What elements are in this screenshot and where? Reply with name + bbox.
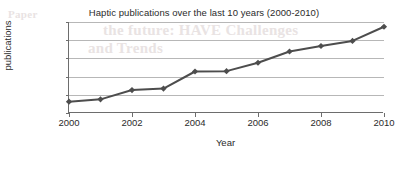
x-tick-label: 2006 bbox=[235, 117, 281, 128]
data-point-marker bbox=[66, 99, 72, 105]
x-axis-label: Year bbox=[68, 137, 383, 148]
chart-figure: Paper the future: HAVE Challenges and Tr… bbox=[0, 0, 408, 187]
data-point-marker bbox=[318, 43, 324, 49]
data-series-haptic-publications bbox=[69, 22, 384, 113]
data-point-marker bbox=[223, 68, 229, 74]
data-point-marker bbox=[97, 96, 103, 102]
x-tick-label: 2002 bbox=[109, 117, 155, 128]
data-point-marker bbox=[381, 24, 387, 30]
y-axis-label: Number of publications bbox=[0, 0, 15, 91]
x-tick-label: 2008 bbox=[298, 117, 344, 128]
x-tick-label: 2004 bbox=[172, 117, 218, 128]
chart-title: Haptic publications over the last 10 yea… bbox=[0, 7, 408, 18]
series-line bbox=[69, 27, 384, 102]
data-point-marker bbox=[255, 60, 261, 66]
data-point-marker bbox=[129, 87, 135, 93]
data-point-marker bbox=[349, 38, 355, 44]
y-axis-label-wrapper: Number of publications bbox=[0, 0, 1, 91]
x-tick-label: 2000 bbox=[46, 117, 92, 128]
x-tick-label: 2010 bbox=[361, 117, 407, 128]
plot-area: 0500100015002000250020002002200420062008… bbox=[68, 22, 383, 113]
data-point-marker bbox=[286, 48, 292, 54]
